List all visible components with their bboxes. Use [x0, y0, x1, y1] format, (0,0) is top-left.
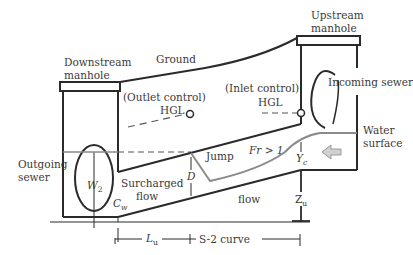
inlet-hgl-marker	[298, 110, 305, 117]
ground-label: Ground	[156, 53, 196, 65]
sewer-hydraulic-jump-diagram: Downstream manhole Ground Upstream manho…	[0, 0, 413, 255]
outlet-hgl-marker	[187, 111, 194, 118]
inlet-hgl-label: HGL	[258, 96, 283, 108]
water-surface-label-2: surface	[363, 137, 402, 149]
s2-curve-label: S-2 curve	[199, 233, 250, 245]
upstream-manhole-label: Upstream	[311, 9, 364, 21]
surcharged-flow-label: Surcharged	[121, 177, 184, 189]
downstream-manhole-cap	[60, 82, 120, 91]
upstream-manhole-cap	[297, 36, 360, 45]
outlet-control-label: (Outlet control)	[123, 91, 206, 103]
surcharged-flow-label-2: flow	[136, 190, 158, 202]
w2-label: W2	[87, 179, 103, 194]
ground-line	[120, 38, 297, 82]
yc-label: Yc	[296, 152, 308, 167]
water-surface-label: Water	[363, 124, 396, 136]
outlet-hgl-label: HGL	[160, 104, 185, 116]
downstream-manhole-label: Downstream	[64, 56, 132, 68]
inlet-control-label: (Inlet control)	[225, 82, 299, 94]
d-label: D	[186, 170, 196, 182]
jump-label: Jump	[205, 150, 234, 162]
downstream-manhole-label-2: manhole	[64, 69, 110, 81]
flow-label: flow	[238, 193, 260, 205]
lu-label: Lu	[145, 232, 158, 247]
incoming-sewer-label: Incoming sewer	[328, 76, 413, 88]
outgoing-sewer-label-2: sewer	[18, 171, 51, 183]
froude-label: Fr > 1	[248, 144, 283, 156]
flow-direction-arrow-icon	[322, 145, 341, 159]
downstream-manhole	[60, 82, 120, 217]
zu-label: Zu	[295, 193, 307, 208]
outgoing-sewer-label: Outgoing	[18, 158, 68, 170]
cw-label: Cw	[113, 197, 128, 212]
upstream-manhole-label-2: manhole	[311, 22, 357, 34]
